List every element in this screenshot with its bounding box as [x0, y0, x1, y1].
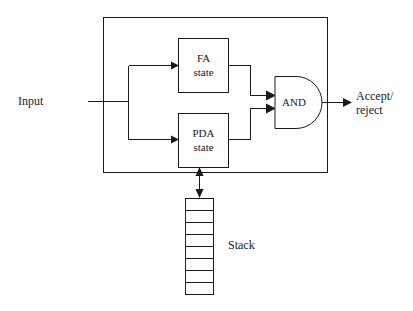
figure-canvas: Input FA state PDA state AND Accept/ rej… [0, 0, 413, 311]
fa-state-label-line2: state [193, 66, 213, 78]
fa-state-label-line1: FA [197, 52, 210, 64]
pda-state-label-line1: PDA [192, 127, 214, 139]
and-gate-label: AND [282, 96, 306, 108]
arrowhead-to-output-icon [343, 98, 352, 107]
output-label-line1: Accept/ [356, 89, 394, 103]
input-label: Input [18, 94, 44, 108]
pda-state-label-line2: state [193, 141, 213, 153]
stack-label: Stack [228, 238, 255, 252]
block-diagram: Input FA state PDA state AND Accept/ rej… [0, 0, 413, 311]
arrowhead-down-to-stack-icon [196, 189, 204, 198]
output-label-line2: reject [356, 103, 383, 117]
